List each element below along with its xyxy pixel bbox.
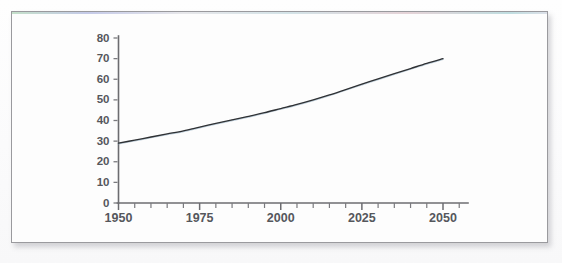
series-scan-fringe bbox=[119, 59, 444, 144]
y-axis: 01020304050607080 bbox=[97, 32, 119, 209]
y-axis-tick-label: 0 bbox=[103, 197, 109, 209]
y-axis-tick-label: 10 bbox=[97, 176, 110, 188]
y-axis-tick-label: 50 bbox=[97, 93, 110, 105]
y-axis-tick-label: 40 bbox=[97, 114, 110, 126]
x-axis-tick-label: 1975 bbox=[186, 211, 214, 225]
y-axis-tick-label: 80 bbox=[97, 32, 110, 44]
y-axis-tick-label: 60 bbox=[97, 73, 110, 85]
screenshot-root: 01020304050607080 19501975200020252050 bbox=[0, 0, 562, 263]
x-axis-tick-label: 1950 bbox=[105, 211, 133, 225]
data-series-group bbox=[119, 59, 444, 144]
x-axis-tick-label: 2025 bbox=[348, 211, 376, 225]
x-axis: 19501975200020252050 bbox=[105, 203, 468, 225]
line-chart-plot: 01020304050607080 19501975200020252050 bbox=[0, 0, 562, 263]
x-axis-tick-label: 2000 bbox=[267, 211, 295, 225]
y-axis-tick-label: 70 bbox=[97, 52, 110, 64]
x-axis-tick-label: 2050 bbox=[429, 211, 457, 225]
series-line bbox=[119, 59, 444, 144]
y-axis-tick-label: 30 bbox=[97, 135, 110, 147]
y-axis-tick-label: 20 bbox=[97, 155, 110, 167]
